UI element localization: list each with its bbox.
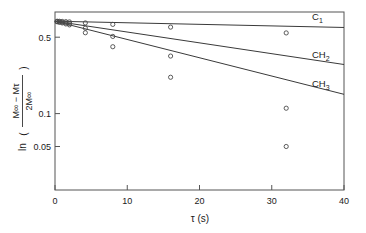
y-tick-label: 0.5 [38, 33, 51, 43]
y-tick-label: 0.05 [33, 142, 51, 152]
series-label-subscript-CH2: 2 [326, 55, 330, 62]
x-axis-tick-labels: 010203040 [52, 196, 349, 206]
y-axis-tick-labels: 0.50.10.05 [33, 33, 51, 152]
figure-root: 010203040 0.50.10.05 C1CH2CH3 τ (s) ln (… [0, 0, 366, 233]
series-label-subscript-C1: 1 [319, 17, 323, 24]
y-axis-title-prefix: ln [17, 143, 28, 151]
y-axis-title-denominator: 2M∞ [24, 92, 34, 111]
y-axis-title-numerator: M∞ − Mτ [11, 83, 21, 119]
series-label-subscript-CH3: 3 [326, 84, 330, 91]
semilog-decay-chart: 010203040 0.50.10.05 C1CH2CH3 τ (s) ln (… [0, 0, 366, 233]
x-tick-label: 0 [52, 196, 57, 206]
plot-frame [55, 12, 344, 190]
y-tick-label: 0.1 [38, 109, 51, 119]
x-axis-title: τ (s) [191, 213, 209, 224]
y-axis-title-open-paren: ( [18, 132, 29, 136]
y-axis-title: ln ( M∞ − Mτ 2M∞ ) [11, 66, 34, 151]
y-axis-title-close-paren: ) [18, 66, 29, 69]
x-tick-label: 10 [122, 196, 132, 206]
x-tick-label: 20 [194, 196, 204, 206]
x-tick-label: 40 [339, 196, 349, 206]
x-tick-label: 30 [267, 196, 277, 206]
